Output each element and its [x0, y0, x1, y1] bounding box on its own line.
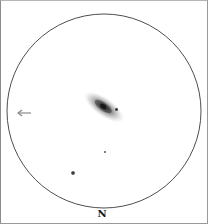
faint-star [104, 151, 107, 154]
north-label: N [96, 208, 108, 220]
eyepiece-sketch [0, 0, 208, 224]
star-near-galaxy [115, 108, 119, 112]
galaxy [79, 85, 129, 128]
bright-star [71, 171, 76, 176]
arrow-left-icon [18, 110, 31, 116]
